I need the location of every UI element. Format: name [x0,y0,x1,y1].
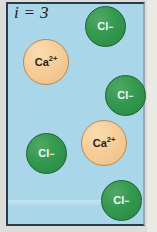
ion-solution-figure: i = 3 Cl−Ca2+Cl−Ca2+Cl−Cl− [0,0,157,232]
ion-chloride: Cl− [105,75,146,116]
ion-symbol: Cl [113,195,124,206]
ion-symbol: Cl [117,90,128,101]
ion-chloride: Cl− [26,133,67,174]
ion-charge: 2+ [49,57,58,68]
ion-symbol: Ca [35,57,49,68]
index-label: i = 3 [14,3,49,23]
ion-symbol: Cl [97,21,108,32]
ion-charge: 2+ [107,138,116,149]
ion-calcium: Ca2+ [23,39,69,85]
ion-symbol: Ca [93,138,107,149]
ion-chloride: Cl− [101,180,142,221]
figure-right-gutter [147,0,157,232]
ion-chloride: Cl− [85,6,126,47]
ion-symbol: Cl [38,148,49,159]
solution-container: i = 3 Cl−Ca2+Cl−Ca2+Cl−Cl− [6,2,145,226]
ion-calcium: Ca2+ [81,120,127,166]
